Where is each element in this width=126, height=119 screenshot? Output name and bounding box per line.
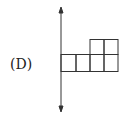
square	[90, 40, 104, 55]
square	[90, 55, 104, 72]
reflection-diagram	[0, 0, 126, 119]
square	[104, 40, 118, 55]
square	[76, 55, 90, 72]
grid-squares	[61, 40, 118, 72]
square	[61, 55, 76, 72]
square	[104, 55, 118, 72]
arrow-up-icon	[59, 7, 63, 13]
arrow-down-icon	[59, 106, 63, 112]
